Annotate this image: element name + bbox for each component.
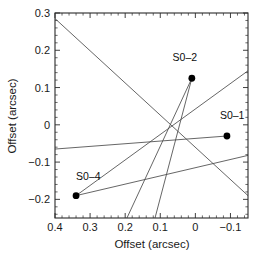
offset-scatter-figure: 0.40.30.20.10−0.10.30.20.10−0.1−0.2 S0–2…	[0, 0, 264, 264]
plot-canvas: 0.40.30.20.10−0.10.30.20.10−0.1−0.2 S0–2…	[0, 0, 264, 264]
x-tick-label: −0.1	[220, 221, 242, 233]
orbit-trace	[155, 78, 192, 218]
star-marker[interactable]	[188, 75, 195, 82]
star-label: S0–1	[220, 109, 245, 121]
star-marker[interactable]	[73, 192, 80, 199]
x-tick-label: 0.2	[118, 221, 133, 233]
y-tick-label: −0.2	[28, 193, 50, 205]
y-axis-title: Offset (arcsec)	[6, 78, 18, 153]
y-tick-label: 0	[44, 119, 50, 131]
orbit-trace	[127, 78, 192, 218]
star-label: S0–2	[173, 51, 198, 63]
x-tick-label: 0	[192, 221, 198, 233]
y-tick-label: 0.2	[35, 44, 50, 56]
star-marker[interactable]	[224, 133, 231, 140]
y-tick-label: 0.3	[35, 7, 50, 19]
orbit-trace	[55, 136, 227, 149]
y-tick-label: −0.1	[28, 156, 50, 168]
axis-tick-labels-group: 0.40.30.20.10−0.10.30.20.10−0.1−0.2	[28, 7, 241, 233]
x-tick-label: 0.4	[47, 221, 62, 233]
orbit-trace	[76, 71, 248, 196]
x-tick-label: 0.3	[82, 221, 97, 233]
x-tick-label: 0.1	[153, 221, 168, 233]
star-label: S0–4	[76, 170, 101, 182]
orbit-trace	[76, 155, 248, 195]
x-axis-title: Offset (arcsec)	[114, 238, 189, 250]
y-tick-label: 0.1	[35, 82, 50, 94]
